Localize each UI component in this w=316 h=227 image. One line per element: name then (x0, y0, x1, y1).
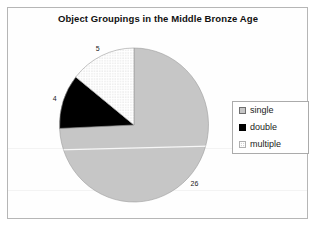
legend-label-multiple: multiple (250, 140, 281, 149)
pie-data-label-multiple: 5 (96, 45, 100, 52)
legend-label-single: single (250, 106, 274, 115)
legend-item-multiple: multiple (239, 140, 308, 149)
pie-data-label-double: 4 (53, 95, 57, 102)
legend-item-double: double (239, 123, 308, 132)
legend-label-double: double (250, 123, 277, 132)
legend-item-single: single (239, 106, 308, 115)
pie-data-label-single: 26 (191, 180, 199, 187)
legend-swatch-multiple (239, 141, 246, 148)
legend-swatch-double (239, 124, 246, 131)
chart-title: Object Groupings in the Middle Bronze Ag… (8, 13, 308, 24)
legend-swatch-single (239, 107, 246, 114)
legend: single double multiple (232, 101, 309, 154)
